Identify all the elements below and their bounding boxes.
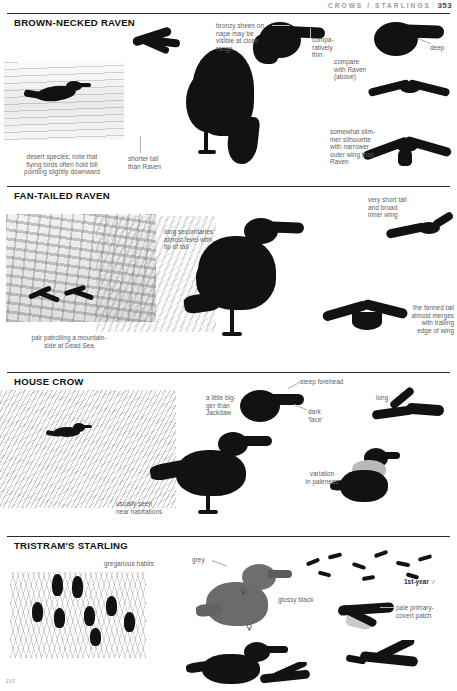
bird-tail-silhouette bbox=[183, 292, 221, 315]
annotation-glossy-black: glossy black bbox=[278, 596, 330, 604]
annotation-deep: deep bbox=[430, 44, 456, 52]
leader-line-shorter-tail bbox=[140, 136, 141, 153]
section-rule bbox=[7, 372, 450, 373]
bird-foot-silhouette bbox=[222, 332, 242, 336]
annotation-long: long bbox=[376, 394, 402, 402]
flock-illustration-perched bbox=[28, 568, 148, 646]
section-tristrams-starling: TRISTRAM'S STARLING bbox=[0, 536, 457, 691]
wing-tip-silhouette bbox=[432, 211, 455, 229]
annotation-dark-face: dark 'face' bbox=[308, 408, 338, 423]
section-house-crow: HOUSE CROW a little big- ger than Jackda… bbox=[0, 372, 457, 536]
leader-line-bronzy-sheen bbox=[272, 25, 290, 26]
bird-tail-silhouette bbox=[226, 115, 261, 166]
species-title-brown-necked-raven: BROWN-NECKED RAVEN bbox=[14, 17, 135, 28]
starling-silhouette bbox=[124, 612, 135, 632]
bird-breast-silhouette bbox=[186, 72, 228, 132]
annotation-comparatively-thin: compa- ratively thin bbox=[312, 36, 348, 59]
section-fan-tailed-raven: FAN-TAILED RAVEN long secondaries almost… bbox=[0, 186, 457, 372]
comparison-bill-silhouette bbox=[406, 24, 444, 38]
starling-silhouette bbox=[90, 628, 101, 646]
head-portrait-raven-comparison bbox=[370, 16, 450, 60]
flying-starling-silhouette bbox=[418, 554, 433, 562]
bird-foot-silhouette bbox=[198, 510, 218, 514]
annotation-steep-forehead: steep forehead bbox=[300, 378, 356, 386]
annotation-pair-patrolling: pair patrolling a mountain- side at Dead… bbox=[10, 334, 128, 349]
patrolling-pair-illustration bbox=[24, 282, 104, 318]
crow-bill-silhouette bbox=[82, 425, 92, 428]
body-silhouette bbox=[406, 403, 445, 417]
annotation-desert-species: desert species; note that flying birds o… bbox=[6, 153, 118, 176]
section-rule bbox=[7, 536, 450, 537]
bird-bill-silhouette bbox=[242, 436, 272, 446]
species-title-tristrams-starling: TRISTRAM'S STARLING bbox=[14, 540, 128, 551]
species-title-fan-tailed-raven: FAN-TAILED RAVEN bbox=[14, 190, 110, 201]
pale-variant-bill-silhouette bbox=[382, 452, 400, 459]
leader-line-pale-primary-covert bbox=[380, 607, 394, 608]
starling-silhouette bbox=[54, 608, 65, 628]
annotation-pale-primary-covert: pale primary- covert patch bbox=[396, 604, 454, 619]
flying-starling-silhouette bbox=[374, 550, 389, 558]
symbol-female-black: ♀ bbox=[246, 624, 258, 632]
section-brown-necked-raven: BROWN-NECKED RAVEN bbox=[0, 0, 457, 186]
male-bill-silhouette bbox=[264, 646, 288, 653]
flying-starling-silhouette bbox=[362, 575, 375, 581]
perched-bird-illustration-house-crow bbox=[150, 424, 290, 534]
perched-crow-in-palm-illustration bbox=[46, 420, 96, 446]
annotation-shorter-tail: shorter tail than Raven bbox=[128, 155, 184, 170]
annotation-variation-in-paleness: variation in paleness bbox=[292, 470, 352, 485]
annotation-very-short-tail: very short tail and broad inner wing bbox=[368, 196, 424, 219]
bird-bill-silhouette bbox=[270, 221, 304, 233]
symbol-female-grey: ♀ bbox=[240, 588, 252, 596]
annotation-a-little-bigger: a little big- ger than Jackdaw bbox=[206, 394, 246, 417]
perched-raven-on-rock-illustration bbox=[22, 78, 96, 112]
flying-starling-silhouette bbox=[306, 558, 320, 567]
field-guide-page: { "page": { "running_head": "CROWS / STA… bbox=[0, 0, 457, 691]
fanned-tail-silhouette bbox=[352, 312, 382, 330]
perched-bird-illustration-fan-tailed-raven bbox=[182, 202, 322, 366]
annotation-slimmer-silhouette: somewhat slim- mer silhouette with narro… bbox=[330, 128, 384, 166]
flying-starling-silhouette bbox=[396, 561, 411, 568]
starling-silhouette bbox=[72, 576, 83, 598]
bird-one-wing-silhouette bbox=[38, 290, 60, 303]
female-bill-shape bbox=[268, 570, 292, 578]
starling-silhouette bbox=[84, 606, 95, 626]
starling-silhouette bbox=[106, 596, 117, 616]
section-rule bbox=[7, 13, 450, 14]
starling-silhouette bbox=[32, 602, 43, 622]
flight-tail-silhouette bbox=[398, 150, 412, 166]
section-rule bbox=[7, 186, 450, 187]
flying-starling-silhouette bbox=[318, 570, 332, 577]
annotation-bronzy-sheen: bronzy sheen on nape may be visible at c… bbox=[216, 22, 272, 52]
annotation-usually-seen: usually seen near habitations bbox=[116, 500, 180, 515]
flying-starling-silhouette bbox=[328, 552, 343, 559]
annotation-first-year-male: 1st-year ♂ bbox=[404, 578, 456, 586]
crow-tail-silhouette bbox=[46, 430, 60, 437]
leader-line-comparatively-thin bbox=[310, 28, 311, 38]
starling-silhouette bbox=[52, 574, 63, 596]
raven-bill-silhouette bbox=[78, 83, 91, 87]
annotation-long-secondaries: long secondaries almost level with tip o… bbox=[164, 228, 226, 251]
flying-starling-silhouette bbox=[352, 562, 367, 570]
annotation-compare-with-raven: compare with Raven (above) bbox=[334, 58, 390, 81]
flight-illustration-adult-male bbox=[340, 640, 450, 690]
bill-silhouette bbox=[270, 394, 304, 405]
annotation-fanned-tail: the fanned tail almost merges with trail… bbox=[398, 304, 454, 334]
bird-foot-silhouette bbox=[198, 150, 216, 154]
artist-signature: DZ bbox=[6, 677, 16, 684]
flight-illustration-bottom-centre bbox=[246, 662, 342, 691]
annotation-gregarious-habits: gregarious habits bbox=[104, 560, 184, 568]
species-title-house-crow: HOUSE CROW bbox=[14, 376, 84, 387]
flight-body-silhouette bbox=[400, 82, 420, 93]
